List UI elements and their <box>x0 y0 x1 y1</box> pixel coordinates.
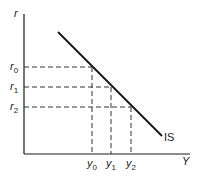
is-curve-label: IS <box>164 132 174 143</box>
is-curve-diagram: r Y IS r0 r1 r2 y0 y1 y2 <box>0 0 198 176</box>
y-axis-label: r <box>14 8 18 19</box>
y1-label: y1 <box>106 158 116 172</box>
r0-label: r0 <box>10 61 18 75</box>
guide-lines <box>24 67 131 154</box>
diagram-graphics <box>0 0 198 176</box>
r1-label: r1 <box>10 81 18 95</box>
y2-label: y2 <box>126 158 136 172</box>
r2-label: r2 <box>10 101 18 115</box>
y0-label: y0 <box>87 158 97 172</box>
is-curve <box>58 32 162 136</box>
x-axis-label: Y <box>182 156 189 167</box>
